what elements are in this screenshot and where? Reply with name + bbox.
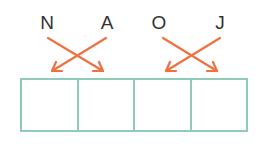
arrow-a-to-box-1: [52, 38, 106, 71]
arrow-j-to-box-3: [166, 38, 220, 71]
arrow-n-to-box-2: [48, 38, 103, 71]
answer-box-4[interactable]: [192, 80, 247, 130]
arrow-o-to-box-4: [163, 38, 217, 71]
answer-box-1[interactable]: [22, 80, 79, 130]
answer-box-2[interactable]: [79, 80, 136, 130]
answer-box-3[interactable]: [135, 80, 192, 130]
answer-boxes: [20, 78, 248, 132]
